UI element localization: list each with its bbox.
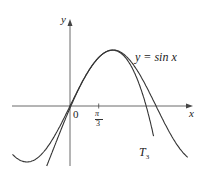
- t3-curve: [47, 50, 154, 166]
- origin-label: 0: [73, 109, 79, 120]
- sin-curve-label: y = sin x: [135, 51, 177, 63]
- x-axis-label: x: [189, 108, 194, 119]
- pi-numerator: π: [95, 110, 99, 118]
- chart-canvas: [0, 0, 206, 178]
- t3-label-subscript: 3: [146, 153, 150, 161]
- t3-label-main: T: [139, 145, 146, 159]
- y-axis-arrow-icon: [68, 19, 73, 26]
- y-axis-label: y: [61, 14, 66, 25]
- t3-label: T3: [139, 146, 149, 161]
- pi-denominator: 3: [96, 120, 100, 128]
